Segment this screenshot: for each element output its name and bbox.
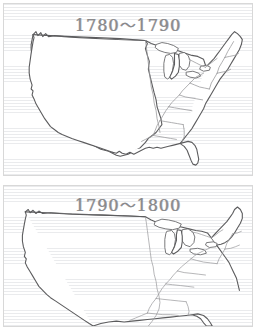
new-england-coast bbox=[211, 207, 242, 245]
florida-peninsula bbox=[186, 314, 212, 326]
lake-ontario bbox=[200, 65, 211, 71]
lake-huron bbox=[178, 52, 190, 70]
northern-border-line bbox=[25, 212, 145, 217]
us-map-1780-1790 bbox=[4, 4, 252, 175]
map-panel-1790-1800: 1790～1800 bbox=[3, 185, 253, 327]
us-map-svg bbox=[4, 4, 252, 175]
map-sheet: 1780～1790 bbox=[0, 0, 256, 327]
east-coast-line bbox=[180, 32, 242, 144]
lake-superior bbox=[155, 43, 178, 54]
lake-huron bbox=[181, 229, 195, 247]
map-panel-1780-1790: 1780～1790 bbox=[3, 3, 253, 176]
west-coast-line bbox=[22, 212, 93, 326]
us-map-1790-1800 bbox=[4, 186, 252, 326]
florida-peninsula bbox=[180, 141, 198, 165]
lake-ontario bbox=[206, 242, 218, 248]
lake-superior bbox=[154, 219, 181, 230]
lake-erie bbox=[186, 71, 201, 78]
us-map-svg bbox=[4, 186, 252, 326]
gulf-coast-line bbox=[93, 315, 186, 326]
